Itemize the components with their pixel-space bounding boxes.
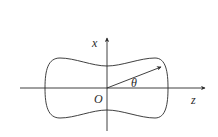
z-axis-label: z [191, 94, 196, 106]
diagram-canvas [0, 0, 218, 137]
x-axis-label: x [92, 37, 97, 49]
theta-label: θ [131, 77, 137, 89]
polar-diagram: x z O θ [0, 0, 218, 137]
origin-label: O [94, 93, 103, 105]
